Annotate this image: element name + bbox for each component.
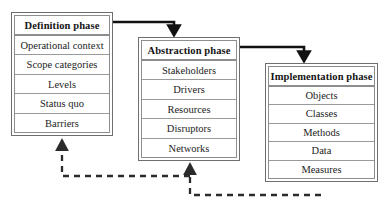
phase-row-barriers[interactable]: Barriers [15,114,109,133]
phase-row-levels[interactable]: Levels [15,75,109,94]
phase-row-operational-context[interactable]: Operational context [15,36,109,55]
phase-header-implementation: Implementation phase [269,67,374,87]
phase-row-disruptors[interactable]: Disruptors [142,119,236,138]
phase-row-classes[interactable]: Classes [269,105,374,123]
phase-box-inner: Definition phase Operational context Sco… [14,15,110,133]
phase-row-status-quo[interactable]: Status quo [15,94,109,113]
phase-box-definition[interactable]: Definition phase Operational context Sco… [11,12,113,136]
phase-header-definition: Definition phase [15,16,109,36]
phase-box-inner: Implementation phase Objects Classes Met… [268,66,375,179]
phase-box-abstraction[interactable]: Abstraction phase Stakeholders Drivers R… [138,37,240,161]
connector-definition-to-abstraction [113,22,174,31]
phase-row-data[interactable]: Data [269,142,374,160]
phase-box-inner: Abstraction phase Stakeholders Drivers R… [141,40,237,158]
phase-row-objects[interactable]: Objects [269,87,374,105]
phase-row-networks[interactable]: Networks [142,139,236,158]
phase-row-methods[interactable]: Methods [269,124,374,142]
phase-row-resources[interactable]: Resources [142,100,236,119]
phase-row-stakeholders[interactable]: Stakeholders [142,61,236,80]
phase-box-implementation[interactable]: Implementation phase Objects Classes Met… [265,63,378,182]
phase-header-abstraction: Abstraction phase [142,41,236,61]
phase-row-scope-categories[interactable]: Scope categories [15,55,109,74]
diagram-canvas: Definition phase Operational context Sco… [0,0,389,205]
connector-abstraction-to-implementation [240,47,304,57]
phase-row-drivers[interactable]: Drivers [142,80,236,99]
phase-row-measures[interactable]: Measures [269,161,374,179]
